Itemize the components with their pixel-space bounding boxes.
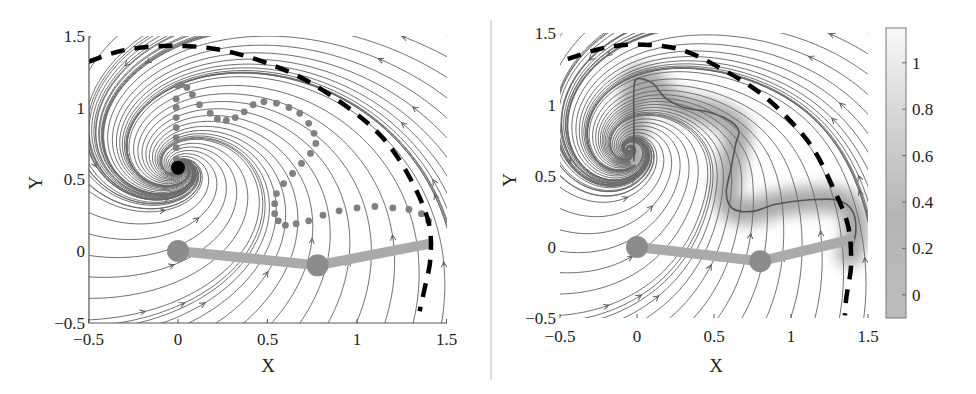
arm-joint [749, 250, 771, 272]
y-tick-label: 1.5 [64, 27, 85, 46]
y-tick-label: 0 [548, 238, 557, 257]
x-tick-label: 0.5 [703, 327, 724, 346]
demo-point [389, 205, 396, 212]
demo-point [241, 108, 248, 115]
demo-point [250, 101, 257, 108]
colorbar: 00.20.40.60.81 [886, 28, 934, 318]
demo-point [406, 206, 413, 213]
x-tick-label: 0 [633, 327, 642, 346]
arm-joint [167, 240, 189, 262]
left-x-axis-label: X [261, 355, 275, 376]
left-robot-arm [167, 240, 429, 276]
colorbar-tick-label: 1 [912, 54, 921, 73]
right-streamlines [534, 0, 877, 321]
demo-point [173, 114, 180, 121]
demo-point [372, 203, 379, 210]
x-tick-label: −0.5 [545, 327, 576, 346]
arm-joint [626, 236, 648, 258]
x-tick-label: 1.5 [857, 327, 878, 346]
demo-point [223, 117, 230, 124]
right-y-ticks: −0.500.511.5 [525, 24, 556, 328]
x-tick-label: 1 [787, 327, 796, 346]
demo-point [293, 220, 300, 227]
demo-point [196, 101, 203, 108]
demo-point [354, 205, 361, 212]
x-tick-label: 0 [174, 330, 183, 349]
demo-point [296, 110, 303, 117]
y-tick-label: −0.5 [54, 314, 85, 333]
left-y-axis-label: Y [25, 176, 46, 190]
left-streamlines [59, 0, 457, 326]
y-tick-label: 1 [77, 99, 86, 118]
demo-point [307, 150, 314, 157]
demo-point [311, 130, 318, 137]
colorbar-tick-label: 0.8 [912, 100, 933, 119]
right-robot-arm [626, 236, 850, 272]
y-tick-label: 1 [548, 96, 557, 115]
colorbar-gradient [886, 28, 906, 318]
colorbar-ticks: 00.20.40.60.81 [902, 54, 934, 305]
left-plot: −0.500.511.5 −0.500.511.5 X Y [25, 0, 457, 376]
demo-point [214, 116, 221, 123]
y-tick-label: 0.5 [64, 170, 85, 189]
x-tick-label: 1 [353, 330, 362, 349]
demo-point [320, 212, 327, 219]
demo-point [289, 170, 296, 177]
demo-point [173, 95, 180, 102]
left-y-ticks: −0.500.511.5 [54, 27, 85, 333]
demo-point [305, 120, 312, 127]
demo-point [173, 104, 180, 111]
demo-point [298, 160, 305, 167]
demo-point [275, 217, 282, 224]
left-attractor-point [171, 161, 185, 175]
right-x-axis-label: X [709, 355, 723, 376]
demo-point [271, 200, 278, 207]
demo-point [173, 144, 180, 151]
y-tick-label: 1.5 [535, 24, 556, 43]
demo-point [271, 210, 278, 217]
y-tick-label: −0.5 [525, 309, 556, 328]
demo-point [280, 180, 287, 187]
x-tick-label: −0.5 [73, 330, 104, 349]
x-tick-label: 1.5 [436, 330, 457, 349]
figure: −0.500.511.5 −0.500.511.5 X Y −0.500.511… [0, 0, 976, 394]
right-x-ticks: −0.500.511.5 [545, 314, 879, 346]
demo-point [336, 207, 343, 214]
demo-point [232, 114, 239, 121]
demo-point [273, 100, 280, 107]
y-tick-label: 0.5 [535, 167, 556, 186]
demo-point [286, 104, 293, 111]
demo-point [184, 84, 191, 91]
colorbar-tick-label: 0.2 [912, 239, 933, 258]
arm-joint [307, 254, 329, 276]
colorbar-tick-label: 0 [912, 286, 921, 305]
demo-point [189, 91, 196, 98]
demo-point [305, 217, 312, 224]
demo-point [273, 190, 280, 197]
y-tick-label: 0 [77, 242, 86, 261]
colorbar-tick-label: 0.4 [912, 193, 934, 212]
demo-point [207, 110, 214, 117]
right-plot: −0.500.511.5 −0.500.511.5 X Y 00.20.40.6… [499, 0, 934, 376]
left-demonstration-dots [173, 81, 432, 228]
demo-point [312, 140, 319, 147]
x-tick-label: 0.5 [257, 330, 278, 349]
demo-point [261, 98, 268, 105]
right-y-axis-label: Y [499, 173, 520, 187]
demo-point [173, 134, 180, 141]
colorbar-tick-label: 0.6 [912, 147, 933, 166]
demo-point [173, 124, 180, 131]
demo-point [282, 222, 289, 229]
